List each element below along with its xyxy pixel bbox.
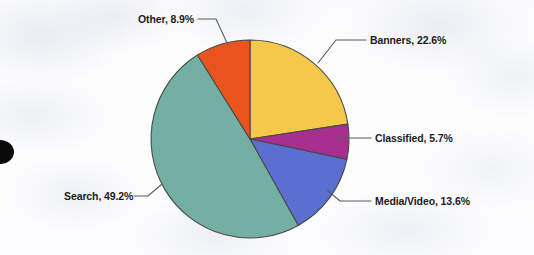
pie-label-search: Search, 49.2% bbox=[64, 191, 133, 202]
pie-label-mediavideo: Media/Video, 13.6% bbox=[375, 196, 470, 207]
pie-chart-figure: Other, 8.9% Banners, 22.6% Classified, 5… bbox=[0, 0, 534, 255]
pie-label-banners: Banners, 22.6% bbox=[370, 35, 446, 46]
pie-label-classified: Classified, 5.7% bbox=[375, 133, 453, 144]
pie-slice-banners bbox=[250, 40, 348, 139]
leader-line-other bbox=[198, 19, 228, 45]
leader-line-banners bbox=[318, 40, 366, 63]
pie-slices-group bbox=[151, 40, 349, 238]
leader-line-search bbox=[134, 184, 162, 196]
pie-chart-svg bbox=[0, 0, 534, 255]
pie-label-other: Other, 8.9% bbox=[138, 14, 194, 25]
